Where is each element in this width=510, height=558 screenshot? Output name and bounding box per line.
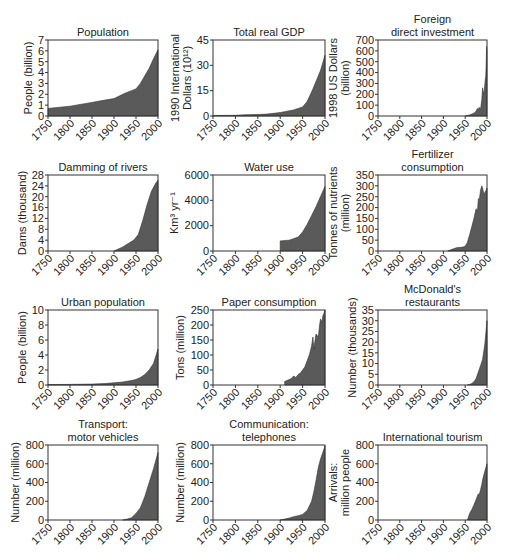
- chart-foreign-direct-investment: 0100200300400500600700175018001850190019…: [327, 13, 493, 143]
- chart-title: Total real GDP: [233, 26, 305, 38]
- chart-title: International tourism: [383, 431, 483, 443]
- y-tick-label: 100: [191, 349, 209, 361]
- y-tick-label: 600: [26, 458, 44, 470]
- x-tick-label: 1900: [424, 252, 450, 278]
- y-tick-label: 200: [356, 88, 374, 100]
- area-series: [467, 464, 487, 520]
- y-tick-label: 600: [356, 458, 374, 470]
- x-tick-label: 1950: [117, 521, 143, 547]
- y-axis-label: Number (million): [9, 442, 21, 523]
- x-tick-label: 1800: [216, 252, 242, 278]
- y-tick-label: 20: [362, 336, 374, 348]
- x-tick-label: 2000: [139, 386, 165, 412]
- area-series: [114, 180, 158, 251]
- x-tick-label: 1900: [261, 252, 287, 278]
- x-tick-label: 1950: [117, 117, 143, 143]
- y-tick-label: 400: [26, 476, 44, 488]
- chart-title: McDonald's: [404, 283, 462, 295]
- x-tick-label: 1750: [194, 117, 220, 143]
- plot-frame: [48, 310, 158, 385]
- chart-title: Communication:: [229, 418, 308, 430]
- y-tick-label: 2: [38, 88, 44, 100]
- area-series: [213, 55, 325, 116]
- x-tick-label: 2000: [306, 521, 332, 547]
- y-axis-label: 1998 US Dollars: [327, 37, 339, 118]
- plot-frame: [378, 310, 487, 385]
- y-axis-label: Tons (million): [174, 315, 186, 380]
- y-tick-label: 6: [38, 45, 44, 57]
- x-tick-label: 1850: [73, 117, 99, 143]
- plot-frame: [378, 445, 487, 520]
- y-tick-label: 24: [32, 180, 44, 192]
- y-tick-label: 15: [362, 347, 374, 359]
- chart-title: Urban population: [61, 296, 145, 308]
- y-tick-label: 700: [356, 34, 374, 46]
- y-tick-label: 2: [38, 364, 44, 376]
- x-tick-label: 1900: [261, 521, 287, 547]
- x-tick-label: 2000: [306, 386, 332, 412]
- chart-title: consumption: [401, 161, 463, 173]
- y-tick-label: 400: [191, 476, 209, 488]
- y-tick-label: 5: [38, 56, 44, 68]
- x-tick-label: 1850: [238, 386, 264, 412]
- y-tick-label: 45: [197, 34, 209, 46]
- chart-title: motor vehicles: [68, 431, 139, 443]
- x-tick-label: 1800: [51, 252, 77, 278]
- y-axis-label: Dollars (10¹²): [181, 46, 193, 110]
- y-tick-label: 8: [38, 319, 44, 331]
- y-tick-label: 250: [191, 304, 209, 316]
- y-tick-label: 10: [362, 357, 374, 369]
- chart-title: Water use: [244, 161, 294, 173]
- chart-water-use: 0200040006000175018001850190019502000Wat…: [168, 161, 331, 278]
- x-tick-label: 1750: [194, 252, 220, 278]
- x-tick-label: 2000: [468, 252, 494, 278]
- x-tick-label: 2000: [468, 386, 494, 412]
- y-tick-label: 800: [26, 439, 44, 451]
- area-series: [280, 446, 325, 520]
- x-tick-label: 1750: [359, 386, 385, 412]
- x-tick-label: 1800: [51, 117, 77, 143]
- x-tick-label: 1850: [73, 521, 99, 547]
- y-tick-label: 16: [32, 201, 44, 213]
- charts-canvas: 01234567175018001850190019502000Populati…: [0, 0, 510, 558]
- y-tick-label: 150: [356, 212, 374, 224]
- y-tick-label: 400: [356, 476, 374, 488]
- y-axis-label: Km³ yr⁻¹: [168, 192, 180, 234]
- x-tick-label: 1850: [238, 521, 264, 547]
- x-tick-label: 1750: [194, 386, 220, 412]
- y-tick-label: 200: [26, 495, 44, 507]
- x-tick-label: 1800: [216, 117, 242, 143]
- area-series: [467, 321, 487, 385]
- x-tick-label: 1750: [29, 117, 55, 143]
- x-tick-label: 1750: [194, 521, 220, 547]
- chart-urban-population: 0246810175018001850190019502000Urban pop…: [16, 296, 165, 412]
- y-tick-label: 4: [38, 66, 44, 78]
- y-axis-label: million people: [339, 449, 351, 516]
- y-tick-label: 6000: [185, 169, 209, 181]
- y-tick-label: 1: [38, 99, 44, 111]
- chart-title: Paper consumption: [222, 296, 317, 308]
- area-series: [465, 47, 487, 117]
- area-series: [48, 50, 158, 116]
- x-tick-label: 1850: [402, 117, 428, 143]
- x-tick-label: 2000: [468, 117, 494, 143]
- x-tick-label: 1900: [95, 117, 121, 143]
- x-tick-label: 1900: [261, 117, 287, 143]
- y-tick-label: 600: [356, 45, 374, 57]
- y-tick-label: 50: [362, 234, 374, 246]
- y-axis-label: Dams (thousand): [16, 171, 28, 255]
- x-tick-label: 1750: [29, 521, 55, 547]
- y-tick-label: 300: [356, 180, 374, 192]
- y-axis-label: Number (million): [174, 442, 186, 523]
- y-tick-label: 600: [191, 458, 209, 470]
- chart-damming-of-rivers: 0481216202428175018001850190019502000Dam…: [16, 161, 165, 278]
- y-tick-label: 150: [191, 334, 209, 346]
- x-tick-label: 1800: [380, 386, 406, 412]
- area-series: [280, 186, 325, 251]
- y-tick-label: 5: [368, 368, 374, 380]
- y-tick-label: 7: [38, 34, 44, 46]
- y-axis-label: 1990 International: [169, 34, 181, 122]
- y-axis-label: Tonnes of nutrients: [327, 166, 339, 259]
- x-tick-label: 1950: [446, 252, 472, 278]
- y-tick-label: 35: [362, 304, 374, 316]
